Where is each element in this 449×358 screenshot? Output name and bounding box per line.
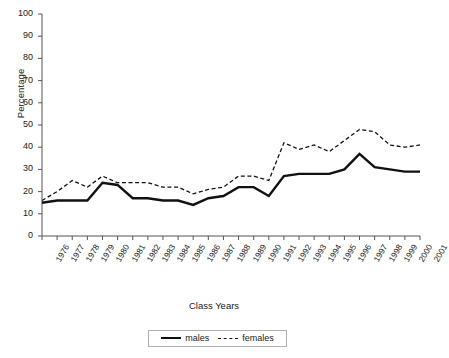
chart-series-lines <box>42 129 420 204</box>
x-axis-title: Class Years <box>0 300 428 311</box>
chart-legend: males females <box>148 330 287 347</box>
y-tick-label: 30 <box>9 164 33 173</box>
legend-line-solid-icon <box>161 337 181 340</box>
y-tick-label: 100 <box>9 9 33 18</box>
legend-item-females: females <box>218 334 274 343</box>
series-line-females <box>42 129 420 200</box>
y-axis-title: Percentage <box>15 34 26 154</box>
y-tick-label: 10 <box>9 209 33 218</box>
chart-axes <box>42 14 420 236</box>
y-tick-label: 0 <box>9 231 33 240</box>
chart-tick-marks <box>38 14 420 240</box>
legend-label-females: females <box>242 334 274 343</box>
legend-label-males: males <box>185 334 209 343</box>
x-tick-label: 2001 <box>432 243 448 263</box>
legend-item-males: males <box>161 334 209 343</box>
y-tick-label: 20 <box>9 187 33 196</box>
legend-line-dashed-icon <box>218 338 238 340</box>
